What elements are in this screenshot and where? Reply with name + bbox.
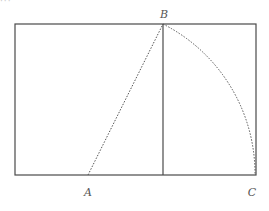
segment-ab-dotted bbox=[88, 24, 163, 175]
point-label-a: A bbox=[84, 187, 92, 198]
point-label-c: C bbox=[248, 187, 256, 198]
point-label-b: B bbox=[160, 9, 168, 20]
outer-rectangle bbox=[15, 24, 256, 175]
golden-rectangle-diagram bbox=[0, 0, 269, 211]
arc-bc-dotted bbox=[163, 24, 255, 175]
